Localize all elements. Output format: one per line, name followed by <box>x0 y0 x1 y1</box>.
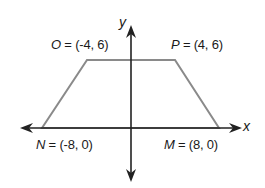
vertex-coords: (4, 6) <box>194 37 223 52</box>
vertex-label-p: P = (4, 6) <box>171 38 223 51</box>
vertex-name: N <box>36 137 45 152</box>
x-axis-label: x <box>243 119 250 133</box>
vertex-coords: (-4, 6) <box>75 37 108 52</box>
vertex-label-m: M = (8, 0) <box>164 138 218 151</box>
equals-sign: = <box>61 37 75 52</box>
vertex-label-n: N = (-8, 0) <box>36 138 93 151</box>
equals-sign: = <box>179 37 193 52</box>
y-axis-label: y <box>119 15 126 29</box>
vertex-label-o: O = (-4, 6) <box>51 38 108 51</box>
vertex-coords: (8, 0) <box>189 137 218 152</box>
diagram-canvas <box>0 0 265 188</box>
equals-sign: = <box>45 137 59 152</box>
coordinate-diagram: y x O = (-4, 6) P = (4, 6) N = (-8, 0) M… <box>0 0 265 188</box>
vertex-name: O <box>51 37 61 52</box>
vertex-coords: (-8, 0) <box>59 137 92 152</box>
vertex-name: M <box>164 137 175 152</box>
equals-sign: = <box>175 137 189 152</box>
